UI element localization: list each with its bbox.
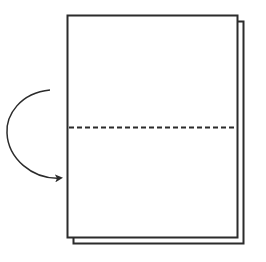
diagram-svg [0, 0, 266, 262]
fold-arrow-icon [7, 90, 61, 178]
folding-diagram [0, 0, 266, 262]
